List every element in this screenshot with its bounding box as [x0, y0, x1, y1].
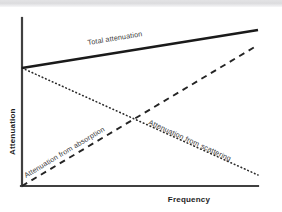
chart-canvas: Total attenuation Attenuation from absor… [0, 0, 282, 212]
scattering-label: Attenuation from scattering [147, 118, 233, 163]
absorption-label: Attenuation from absorption [22, 125, 106, 180]
total-attenuation-label: Total attenuation [87, 29, 143, 47]
x-axis-title: Frequency [168, 195, 211, 204]
y-axis-title: Attenuation [8, 108, 17, 155]
attenuation-vs-frequency-figure: Total attenuation Attenuation from absor… [0, 0, 282, 212]
absorption-curve [22, 45, 258, 186]
